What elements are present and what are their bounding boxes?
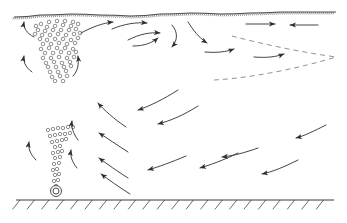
flow-diagram-figure xyxy=(0,0,347,223)
gas-diffuser-nozzle xyxy=(51,186,62,197)
nozzle-outer-ring xyxy=(51,186,62,197)
diagram-canvas xyxy=(0,0,347,223)
